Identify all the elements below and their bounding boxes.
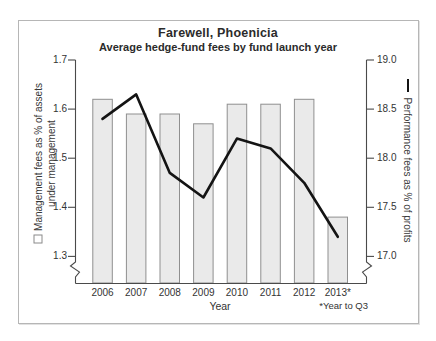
left-tick-label-1.5: 1.5: [41, 152, 67, 164]
footnote: *Year to Q3: [268, 300, 368, 311]
left-tick-label-1.7: 1.7: [41, 54, 67, 66]
bar-2006: [93, 99, 113, 283]
x-axis-title: Year: [180, 300, 260, 312]
right-y-axis: [363, 60, 372, 284]
right-tick-label-18.0: 18.0: [377, 152, 409, 164]
right-tick-label-18.5: 18.5: [377, 103, 409, 115]
bar-2007: [126, 114, 145, 283]
bar-legend-swatch-icon: [34, 235, 43, 244]
right-axis-label-text: Performance fees as % of profits: [402, 97, 413, 242]
right-tick-label-17.5: 17.5: [377, 201, 409, 213]
chart-figure: Farewell, Phoenicia Average hedge-fund f…: [0, 0, 436, 341]
left-tick-label-1.4: 1.4: [41, 201, 67, 213]
bar-2010: [227, 104, 247, 283]
right-tick-label-19.0: 19.0: [377, 54, 409, 66]
line-legend-swatch-icon: [407, 79, 409, 92]
bar-2011: [261, 104, 281, 283]
bar-2012: [294, 99, 314, 283]
bar-2009: [194, 124, 214, 283]
left-tick-label-1.3: 1.3: [41, 250, 67, 262]
right-tick-label-17.0: 17.0: [377, 250, 409, 262]
bar-2008: [160, 114, 180, 283]
left-tick-label-1.6: 1.6: [41, 103, 67, 115]
year-label-2013: 2013*: [316, 287, 360, 299]
left-y-axis: [71, 60, 80, 284]
